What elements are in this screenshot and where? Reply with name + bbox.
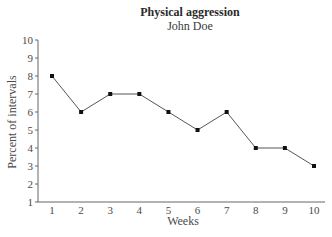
data-point-marker — [283, 146, 287, 150]
x-tick-label: 1 — [49, 204, 55, 216]
series-line — [52, 76, 314, 166]
y-tick-label: 5 — [28, 124, 34, 136]
line-chart: Physical aggression John Doe 12345678910… — [0, 0, 332, 237]
data-series — [50, 74, 316, 168]
chart-title: Physical aggression — [140, 5, 240, 19]
y-tick-label: 1 — [28, 196, 34, 208]
data-point-marker — [254, 146, 258, 150]
y-tick-label: 4 — [28, 142, 34, 154]
y-tick-label: 10 — [22, 34, 34, 46]
data-point-marker — [137, 92, 141, 96]
x-tick-label: 10 — [309, 204, 321, 216]
y-tick-label: 8 — [28, 70, 34, 82]
y-tick-label: 2 — [28, 178, 34, 190]
x-tick-label: 2 — [78, 204, 84, 216]
y-tick-label: 9 — [28, 52, 34, 64]
x-tick-label: 3 — [107, 204, 113, 216]
data-point-marker — [108, 92, 112, 96]
x-tick-label: 7 — [224, 204, 230, 216]
y-tick-label: 7 — [28, 88, 34, 100]
data-point-marker — [166, 110, 170, 114]
chart-subtitle: John Doe — [167, 19, 213, 33]
y-axis: 12345678910 — [22, 34, 38, 208]
data-point-marker — [196, 128, 200, 132]
data-point-marker — [50, 74, 54, 78]
x-tick-label: 8 — [253, 204, 259, 216]
y-axis-label: Percent of intervals — [5, 75, 19, 169]
data-point-marker — [225, 110, 229, 114]
x-tick-label: 4 — [137, 204, 143, 216]
data-point-marker — [79, 110, 83, 114]
data-point-marker — [312, 164, 316, 168]
y-tick-label: 6 — [28, 106, 34, 118]
y-tick-label: 3 — [28, 160, 34, 172]
x-axis-label: Weeks — [167, 214, 199, 228]
x-tick-label: 9 — [282, 204, 288, 216]
